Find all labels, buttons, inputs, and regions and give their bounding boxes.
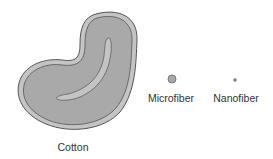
fiber-comparison-diagram <box>0 0 273 159</box>
cotton-inner-body <box>23 16 132 124</box>
nanofiber-label: Nanofiber <box>213 93 259 104</box>
nanofiber-icon <box>234 79 237 82</box>
microfiber-icon <box>168 75 176 83</box>
cotton-fiber-icon <box>18 12 137 129</box>
microfiber-label: Microfiber <box>148 93 194 104</box>
cotton-label: Cotton <box>58 142 89 153</box>
